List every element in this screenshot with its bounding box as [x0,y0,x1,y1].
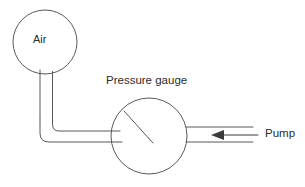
pressure-gauge-dial-icon [111,98,187,174]
air-label: Air [33,34,46,45]
pump-arrow-head-icon [211,130,224,140]
connecting-tube-inner-icon [53,122,121,131]
pressure-gauge-diagram: Air Pressure gauge Pump [0,0,305,187]
gauge-needle-icon [124,111,153,143]
pressure-gauge-label: Pressure gauge [106,75,187,87]
pump-label: Pump [265,128,295,140]
diagram-canvas [0,0,305,187]
